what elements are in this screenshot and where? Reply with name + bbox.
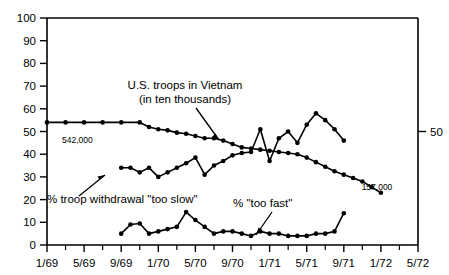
data-point-marker (258, 127, 263, 132)
data-point-marker (249, 150, 254, 155)
data-point-marker (314, 160, 319, 165)
y-axis-tick-labels: 100 90 80 70 60 50 40 30 20 10 0 (17, 12, 36, 251)
data-point-marker (332, 169, 337, 174)
data-point-marker (267, 231, 272, 236)
x-tick-label: 9/70 (221, 257, 243, 269)
data-point-marker (137, 120, 142, 125)
y-tick-label: 60 (23, 103, 36, 115)
data-point-marker (128, 222, 133, 227)
data-point-marker (286, 129, 291, 134)
data-point-marker (156, 127, 161, 132)
data-point-marker (342, 172, 347, 177)
data-point-marker (221, 159, 226, 164)
data-point-marker (314, 111, 319, 116)
data-point-marker (323, 231, 328, 236)
data-point-marker (239, 151, 244, 156)
x-tick-label: 1/70 (147, 257, 169, 269)
right-axis-tick-group: 50 (418, 126, 443, 138)
data-point-marker (156, 229, 161, 234)
chart-container: 100 90 80 70 60 50 40 30 20 10 0 50 (0, 0, 449, 275)
x-tick-label: 9/69 (110, 257, 132, 269)
data-point-marker (342, 138, 347, 143)
data-point-marker (165, 227, 170, 232)
data-point-marker (323, 118, 328, 123)
y-tick-label: 10 (23, 216, 36, 228)
y-tick-label: 80 (23, 57, 36, 69)
data-point-marker (286, 234, 291, 239)
troops-start-value-label: 542,000 (62, 135, 93, 145)
data-point-marker (147, 231, 152, 236)
data-point-marker (323, 164, 328, 169)
data-point-marker (314, 231, 319, 236)
data-point-marker (156, 175, 161, 180)
data-point-marker (119, 120, 124, 125)
x-axis-ticks (47, 245, 418, 252)
data-point-marker (249, 234, 254, 239)
data-point-marker (277, 150, 282, 155)
data-point-marker (304, 122, 309, 127)
data-point-marker (165, 170, 170, 175)
data-point-marker (63, 120, 68, 125)
data-point-marker (147, 166, 152, 171)
data-point-marker (45, 120, 50, 125)
x-tick-label: 5/70 (184, 257, 206, 269)
too-slow-annotation: % troop withdrawal "too slow" (47, 193, 198, 205)
data-point-marker (239, 231, 244, 236)
data-point-marker (184, 131, 189, 136)
data-point-marker (137, 170, 142, 175)
data-point-marker (258, 147, 263, 152)
x-tick-label: 9/71 (333, 257, 355, 269)
y-tick-label: 100 (17, 12, 36, 24)
x-axis-tick-labels: 1/69 5/69 9/69 1/70 5/70 9/70 1/71 5/71 … (36, 257, 429, 269)
x-tick-label: 5/69 (73, 257, 95, 269)
data-point-marker (230, 153, 235, 158)
data-point-marker (295, 141, 300, 146)
x-tick-label: 5/72 (407, 257, 429, 269)
x-tick-label: 1/69 (36, 257, 58, 269)
data-point-marker (202, 136, 207, 141)
data-point-marker (342, 211, 347, 216)
x-tick-label: 1/72 (370, 257, 392, 269)
y-tick-label: 50 (23, 126, 36, 138)
troops-end-value-label: 157,000 (362, 182, 393, 192)
too-fast-annotation: % "too fast" (233, 197, 292, 209)
data-point-marker (212, 163, 217, 168)
troops-arrow-icon (196, 108, 219, 140)
data-point-marker (351, 176, 356, 181)
data-point-marker (193, 134, 198, 139)
y-tick-label: 0 (30, 239, 36, 251)
data-point-marker (119, 166, 124, 171)
annotation-arrows (79, 108, 272, 235)
data-point-marker (267, 159, 272, 164)
troops-annotation-line2: (in ten thousands) (139, 93, 231, 105)
data-point-marker (221, 138, 226, 143)
data-point-marker (230, 142, 235, 147)
series-too-fast (119, 210, 346, 238)
data-point-marker (82, 120, 87, 125)
data-point-marker (147, 125, 152, 130)
data-point-marker (165, 128, 170, 133)
data-point-marker (277, 136, 282, 141)
data-point-marker (267, 149, 272, 154)
y-tick-label: 30 (23, 171, 36, 183)
plot-frame (47, 18, 418, 245)
data-point-marker (184, 161, 189, 166)
data-point-marker (184, 210, 189, 215)
data-point-marker (202, 225, 207, 230)
data-point-marker (286, 151, 291, 156)
data-point-marker (239, 145, 244, 150)
data-point-marker (202, 172, 207, 177)
y-axis-ticks (40, 18, 47, 245)
data-point-marker (128, 166, 133, 171)
data-point-marker (193, 218, 198, 223)
data-point-marker (332, 229, 337, 234)
x-tick-label: 5/71 (296, 257, 318, 269)
data-point-marker (304, 155, 309, 160)
data-point-marker (193, 155, 198, 160)
data-point-marker (137, 221, 142, 226)
data-point-marker (332, 127, 337, 132)
data-point-marker (221, 229, 226, 234)
y-tick-label: 20 (23, 194, 36, 206)
data-point-marker (119, 231, 124, 236)
data-point-marker (295, 152, 300, 157)
